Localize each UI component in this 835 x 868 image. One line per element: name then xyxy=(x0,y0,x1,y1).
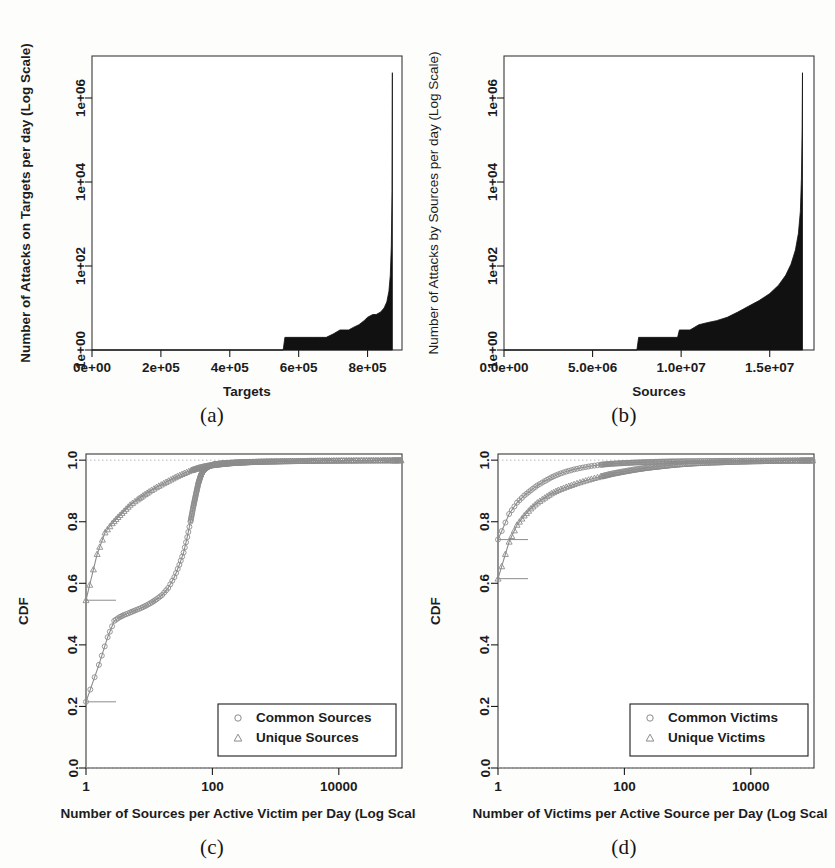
legend-label: Unique Sources xyxy=(256,730,359,745)
panel-c-caption: (c) xyxy=(8,835,416,860)
panel-a: 1e+001e+021e+041e+06 0e+002e+054e+056e+0… xyxy=(8,18,416,430)
x-tick-label: 1.5e+07 xyxy=(745,360,794,375)
panel-d-legend[interactable]: Common VictimsUnique Victims xyxy=(630,704,808,756)
y-tick-label: 0.6 xyxy=(66,573,81,592)
y-tick-label: 1.0 xyxy=(478,451,493,470)
panel-d: 0.00.20.40.60.81.0 110010000 Common Vict… xyxy=(420,432,828,862)
y-tick-label: 0.2 xyxy=(478,697,493,716)
y-tick-label: 1e+02 xyxy=(73,247,88,285)
x-tick-label: 2e+05 xyxy=(142,360,180,375)
panel-a-ylabel: Number of Attacks on Targets per day (Lo… xyxy=(18,43,33,363)
x-tick-label: 10000 xyxy=(732,779,770,794)
y-tick-label: 0.4 xyxy=(66,635,81,654)
panel-c-ylabel: CDF xyxy=(16,597,31,625)
panel-a-xlabel: Targets xyxy=(223,384,271,399)
panel-d-plot: 0.00.20.40.60.81.0 110010000 Common Vict… xyxy=(420,432,828,832)
panel-a-plot: 1e+001e+021e+041e+06 0e+002e+054e+056e+0… xyxy=(8,18,416,406)
y-tick-label: 1e+04 xyxy=(73,163,88,201)
panel-b: 1e+001e+021e+041e+06 0.0e+005.0e+061.0e+… xyxy=(420,18,828,430)
y-tick-label: 0.8 xyxy=(478,512,493,531)
panel-a-caption: (a) xyxy=(8,403,416,428)
panel-d-caption: (d) xyxy=(420,835,828,860)
x-tick-label: 100 xyxy=(613,779,636,794)
x-tick-label: 0.0e+00 xyxy=(479,360,528,375)
x-tick-label: 1 xyxy=(494,779,502,794)
figure-root: 1e+001e+021e+041e+06 0e+002e+054e+056e+0… xyxy=(0,0,835,868)
legend-label: Unique Victims xyxy=(668,730,765,745)
panel-b-caption: (b) xyxy=(420,403,828,428)
y-tick-label: 1e+06 xyxy=(485,79,500,117)
panel-c-xlabel: Number of Sources per Active Victim per … xyxy=(61,806,416,821)
panel-b-ylabel: Number of Attacks by Sources per day (Lo… xyxy=(426,51,441,354)
y-tick-label: 1.0 xyxy=(66,451,81,470)
panel-b-xlabel: Sources xyxy=(632,384,685,399)
legend-label: Common Victims xyxy=(668,710,778,725)
y-tick-label: 0.6 xyxy=(478,573,493,592)
panel-c-plot: 0.00.20.40.60.81.0 110010000 Common Sour… xyxy=(8,432,416,832)
x-tick-label: 5.0e+06 xyxy=(568,360,618,375)
y-tick-label: 0.0 xyxy=(66,759,81,778)
panel-a-frame xyxy=(92,56,402,350)
y-tick-label: 0.8 xyxy=(66,512,81,531)
legend-label: Common Sources xyxy=(256,710,372,725)
panel-c-legend[interactable]: Common SourcesUnique Sources xyxy=(218,704,396,756)
y-tick-label: 1e+06 xyxy=(73,79,88,117)
y-tick-label: 0.2 xyxy=(66,697,81,716)
panel-c: 0.00.20.40.60.81.0 110010000 Common Sour… xyxy=(8,432,416,862)
x-tick-label: 1 xyxy=(82,779,90,794)
x-tick-label: 0e+00 xyxy=(73,360,111,375)
x-tick-label: 4e+05 xyxy=(211,360,249,375)
x-tick-label: 8e+05 xyxy=(349,360,387,375)
panel-d-xlabel: Number of Victims per Active Source per … xyxy=(473,806,828,821)
panel-a-canvas: 1e+001e+021e+041e+06 0e+002e+054e+056e+0… xyxy=(8,18,416,406)
panel-b-plot: 1e+001e+021e+041e+06 0.0e+005.0e+061.0e+… xyxy=(420,18,828,406)
x-tick-label: 10000 xyxy=(320,779,358,794)
panel-d-canvas: 0.00.20.40.60.81.0 110010000 Common Vict… xyxy=(420,432,828,832)
x-tick-label: 6e+05 xyxy=(280,360,318,375)
y-tick-label: 1e+02 xyxy=(485,247,500,285)
panel-c-canvas: 0.00.20.40.60.81.0 110010000 Common Sour… xyxy=(8,432,416,832)
y-tick-label: 0.0 xyxy=(478,759,493,778)
y-tick-label: 1e+04 xyxy=(485,163,500,201)
panel-b-canvas: 1e+001e+021e+041e+06 0.0e+005.0e+061.0e+… xyxy=(420,18,828,406)
x-tick-label: 100 xyxy=(201,779,224,794)
x-tick-label: 1.0e+07 xyxy=(657,360,706,375)
y-tick-label: 0.4 xyxy=(478,635,493,654)
panel-d-ylabel: CDF xyxy=(428,597,443,625)
